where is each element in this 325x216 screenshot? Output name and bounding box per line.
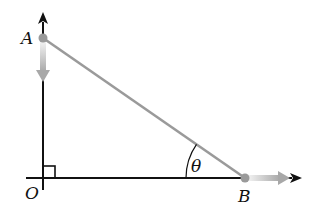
label-a: A [19,28,33,48]
right-arrow-icon [278,171,290,185]
segment-ab [43,38,245,178]
velocity-arrow-a [36,42,50,82]
down-arrow-icon [36,70,50,82]
label-theta: θ [191,156,201,176]
point-b [241,174,250,183]
diagram-canvas: A B O θ [0,0,325,216]
point-a [39,34,48,43]
velocity-arrow-b [248,171,290,185]
label-origin: O [25,183,39,203]
right-angle-marker [43,166,55,178]
label-b: B [237,186,251,206]
